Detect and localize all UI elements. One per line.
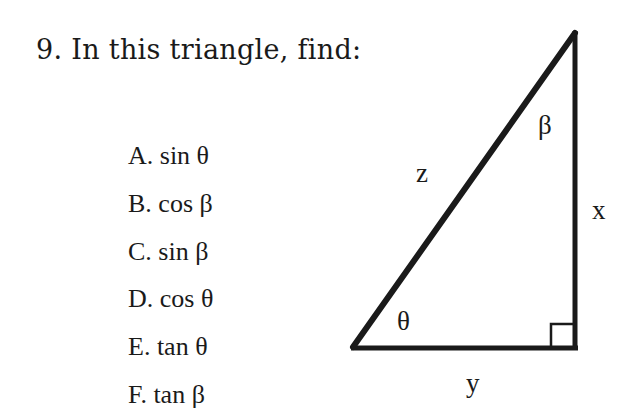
top-angle-label: β (538, 110, 552, 140)
right-angle-marker (551, 324, 575, 348)
hypotenuse-label: z (416, 158, 428, 188)
vertical-leg-label: x (592, 195, 606, 225)
hypotenuse-line (353, 33, 575, 347)
right-triangle-diagram: β z x θ y (0, 0, 633, 408)
horizontal-leg-label: y (466, 368, 480, 398)
bottom-angle-label: θ (397, 306, 410, 336)
